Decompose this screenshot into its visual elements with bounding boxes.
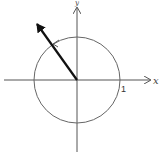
x-axis-label: x xyxy=(153,75,159,86)
diagram-svg: x y 1 xyxy=(0,0,163,152)
angle-vector xyxy=(37,24,77,80)
y-axis-label: y xyxy=(74,0,80,7)
tick-label-one: 1 xyxy=(121,84,126,94)
unit-circle-diagram: x y 1 xyxy=(0,0,163,152)
